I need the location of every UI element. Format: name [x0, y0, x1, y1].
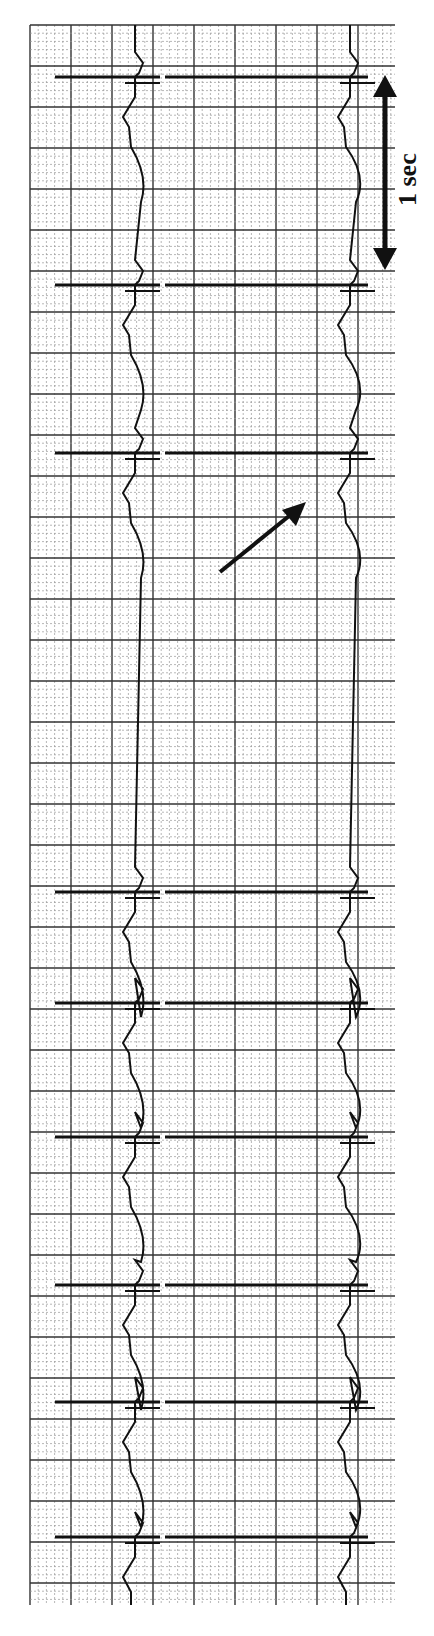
- ecg-grid: [30, 25, 395, 1605]
- annotation-arrow-icon: [220, 502, 306, 572]
- scale-bar-label: 1 sec: [388, 150, 428, 210]
- ecg-strip: [0, 0, 434, 1636]
- ecg-traces: [55, 25, 375, 1605]
